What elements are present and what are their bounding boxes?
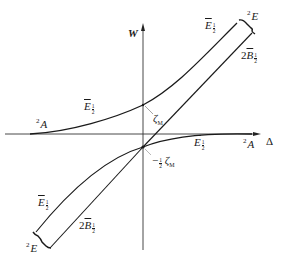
upper-right-e-half-label: E12	[205, 20, 215, 34]
zeta-lower-point	[141, 145, 144, 148]
upper-right-e-main: E	[205, 19, 212, 31]
left-2a-main: A	[41, 118, 48, 130]
right-2a-label: 2A	[243, 138, 254, 150]
upper-right-2b-main: B	[247, 49, 254, 61]
upper-right-e-den: 2	[213, 29, 216, 34]
zeta-upper-leader	[145, 106, 153, 114]
lower-left-2b-main: B	[85, 219, 92, 231]
upper-left-e-den: 2	[92, 110, 95, 115]
zeta-lower-leader	[145, 149, 151, 155]
top-right-2e-sup: 2	[247, 9, 251, 17]
zeta-lower-label: −12 ζM	[152, 155, 175, 169]
bottom-left-2e-label: 2E	[26, 242, 37, 254]
left-2a-label: 2A	[36, 118, 47, 130]
lower-left-e-half-label: E12	[38, 197, 48, 211]
lower-left-e-den: 2	[46, 206, 49, 211]
zeta-lower-sub: M	[169, 162, 174, 168]
lower-left-e-main: E	[38, 196, 45, 208]
delta-axis-arrow-icon	[253, 132, 261, 136]
upper-left-e-main: E	[84, 100, 91, 112]
upper-left-e-half-label: E12	[84, 101, 94, 115]
lower-right-e-den: 2	[202, 146, 205, 151]
upper-right-2b-half-label: 2B12	[241, 50, 257, 64]
lower-left-2b-half-line	[50, 147, 143, 248]
left-2a-sup: 2	[36, 117, 40, 125]
upper-2b-half-line	[143, 33, 252, 147]
zeta-upper-sub: M	[157, 120, 162, 126]
zeta-lower-den: 2	[159, 164, 162, 169]
w-axis-arrow-icon	[141, 23, 145, 31]
right-2a-main: A	[248, 138, 255, 150]
lower-right-e-main: E	[194, 136, 201, 148]
lower-left-2b-half-label: 2B12	[79, 220, 95, 234]
zeta-lower-prefix: −	[152, 154, 158, 166]
w-axis-label: W	[128, 28, 138, 39]
upper-e-half-curve	[30, 23, 237, 134]
diagram-canvas	[0, 0, 288, 264]
right-2a-sup: 2	[243, 137, 247, 145]
top-right-2e-main: E	[252, 10, 259, 22]
zeta-upper-point	[142, 104, 144, 106]
delta-axis-label: Δ	[266, 136, 273, 147]
zeta-upper-label: ζM	[153, 113, 163, 126]
lower-left-2b-den: 2	[92, 229, 95, 234]
bottom-left-2e-main: E	[31, 242, 38, 254]
top-right-2e-label: 2E	[247, 10, 258, 22]
upper-right-2b-den: 2	[254, 59, 257, 64]
bottom-left-2e-sup: 2	[26, 241, 30, 249]
lower-right-e-half-label: E12	[194, 137, 204, 151]
